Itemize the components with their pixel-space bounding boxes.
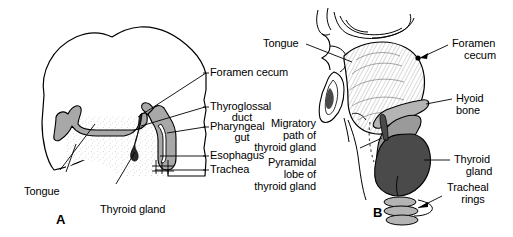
- leader-arrow-foramen-b: [420, 53, 428, 59]
- label-tongue-b: Tongue: [263, 38, 299, 50]
- label-thyroid-gland-b: Thyroid: [454, 154, 490, 166]
- label-thyroid-gland-a: Thyroid gland: [100, 204, 165, 216]
- thyroid-gland-b: [375, 134, 431, 196]
- label-hyoid-bone-b: Hyoid: [456, 93, 484, 105]
- panel-label-a: A: [56, 212, 65, 227]
- label-tracheal-rings-b-line2: rings: [447, 194, 499, 206]
- leader-hyoid-bone-b: [426, 99, 452, 104]
- label-pyramidal-lobe-b: Pyramidal: [244, 157, 316, 169]
- foramen-cecum-marker-b: [415, 55, 420, 60]
- panel-label-b: B: [373, 205, 382, 220]
- neck-contour-b: [348, 120, 366, 200]
- tracheal-rings-b: [384, 197, 418, 225]
- nasal-palate-b: [317, 8, 414, 39]
- label-foramen-cecum-b-line2: cecum: [452, 50, 508, 62]
- label-foramen-cecum-b: Foramen: [452, 38, 495, 50]
- label-tongue-a: Tongue: [24, 186, 60, 198]
- label-migratory-path-b: Migratory: [244, 118, 316, 130]
- label-thyroid-gland-b-line2: gland: [454, 166, 504, 178]
- panel-a-graphic: [42, 27, 209, 184]
- panel-b-graphic: [306, 8, 452, 225]
- label-pyramidal-lobe-b-line2: lobe of: [244, 169, 316, 181]
- label-foramen-cecum-a: Foramen cecum: [210, 67, 288, 79]
- label-hyoid-bone-b-line2: bone: [456, 105, 480, 117]
- label-tracheal-rings-b: Tracheal: [447, 182, 489, 194]
- figure-root: Foramen cecum Thyroglossal duct Pharynge…: [0, 0, 513, 237]
- label-pyramidal-lobe-b-line3: thyroid gland: [236, 181, 316, 193]
- oral-cavity-fill-a: [66, 116, 164, 176]
- label-migratory-path-b-line3: thyroid gland: [236, 142, 316, 154]
- leader-foramen-cecum-a: [138, 73, 206, 117]
- label-migratory-path-b-line2: path of: [244, 130, 316, 142]
